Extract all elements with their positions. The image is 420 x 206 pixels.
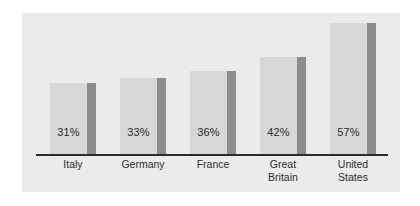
x-tick-label-great-britain-line-1: Great (248, 158, 318, 171)
x-tick-label-france-line-1: France (178, 158, 248, 171)
x-tick-label-great-britain-line-2: Britain (248, 171, 318, 184)
bar-great-britain: 42% (260, 57, 306, 154)
bar-shadow-italy (87, 83, 96, 154)
x-axis-line (36, 154, 388, 156)
bar-shadow-united-states (367, 23, 376, 154)
x-tick-label-germany-line-1: Germany (108, 158, 178, 171)
bar-italy: 31% (50, 83, 96, 154)
x-tick-label-united-states: United States (318, 158, 388, 183)
bar-value-germany: 33% (120, 126, 157, 138)
bar-group-united-states: 57% (330, 23, 376, 154)
bar-value-great-britain: 42% (260, 126, 297, 138)
x-tick-label-france: France (178, 158, 248, 171)
x-tick-label-united-states-line-1: United (318, 158, 388, 171)
bar-group-germany: 33% (120, 78, 166, 154)
bar-group-great-britain: 42% (260, 57, 306, 154)
x-tick-label-great-britain: Great Britain (248, 158, 318, 183)
bar-group-italy: 31% (50, 83, 96, 154)
bar-value-united-states: 57% (330, 126, 367, 138)
bar-value-france: 36% (190, 126, 227, 138)
x-tick-label-united-states-line-2: States (318, 171, 388, 184)
bar-value-italy: 31% (50, 126, 87, 138)
plot-area: 31% 33% 36% 42% 57% (36, 22, 388, 154)
bar-france: 36% (190, 71, 236, 154)
bar-shadow-france (227, 71, 236, 154)
bar-germany: 33% (120, 78, 166, 154)
bar-chart-figure: 31% 33% 36% 42% 57% (0, 0, 420, 206)
bar-shadow-great-britain (297, 57, 306, 154)
bar-united-states: 57% (330, 23, 376, 154)
x-tick-label-italy: Italy (38, 158, 108, 171)
x-axis-tick-labels: Italy Germany France Great Britain Unite… (36, 158, 388, 192)
bar-shadow-germany (157, 78, 166, 154)
bar-group-france: 36% (190, 71, 236, 154)
x-tick-label-germany: Germany (108, 158, 178, 171)
x-tick-label-italy-line-1: Italy (38, 158, 108, 171)
